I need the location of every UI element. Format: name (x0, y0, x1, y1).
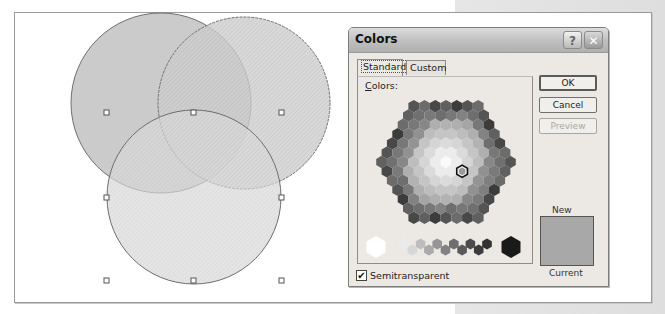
semitransparent-label[interactable]: Semitransparent (370, 270, 449, 281)
handle-middle-left[interactable] (104, 195, 109, 200)
semitransparent-checkbox[interactable]: ✔ (356, 270, 367, 281)
handle-bottom-center[interactable] (191, 278, 196, 283)
close-icon: ✕ (588, 34, 598, 48)
help-button[interactable]: ? (563, 31, 582, 49)
tab-standard-label: Standard (361, 60, 408, 73)
venn-circle-bottom[interactable] (107, 110, 281, 284)
handle-bottom-left[interactable] (104, 278, 109, 283)
palette-gray-cell[interactable] (482, 239, 492, 250)
handle-middle-right[interactable] (279, 195, 284, 200)
palette-gray-cell[interactable] (474, 245, 484, 256)
colors-dialog: Colors ? ✕ Standard Custom Colors: OK Ca… (348, 27, 609, 287)
current-color-label: Current (549, 268, 583, 278)
palette-gray-cell[interactable] (466, 239, 476, 250)
preview-button: Preview (539, 118, 597, 134)
handle-bottom-right[interactable] (279, 278, 284, 283)
handle-top-right[interactable] (279, 110, 284, 115)
palette-gray-cell[interactable] (432, 239, 442, 250)
dialog-title: Colors (355, 32, 397, 46)
ok-button[interactable]: OK (539, 75, 597, 91)
new-color-label: New (552, 205, 572, 215)
palette-gray-cell[interactable] (416, 239, 426, 250)
checkmark-icon: ✔ (357, 270, 365, 281)
palette-gray-cell[interactable] (408, 245, 418, 256)
palette-gray-cell[interactable] (441, 245, 451, 256)
palette-gray-cell[interactable] (424, 245, 434, 256)
color-hexagon-palette[interactable] (358, 77, 534, 265)
palette-gray-cell[interactable] (449, 239, 459, 250)
palette-gray-cell[interactable] (457, 245, 467, 256)
cancel-button[interactable]: Cancel (539, 97, 597, 113)
handle-top-center[interactable] (191, 110, 196, 115)
palette-black[interactable] (502, 236, 521, 258)
handle-top-left[interactable] (104, 110, 109, 115)
dialog-titlebar[interactable]: Colors ? ✕ (349, 28, 608, 53)
tab-standard[interactable]: Standard (357, 59, 403, 76)
palette-gray-cell[interactable] (399, 239, 409, 250)
standard-panel: Colors: (357, 76, 533, 264)
close-button[interactable]: ✕ (584, 31, 603, 49)
color-preview-swatch (540, 216, 594, 266)
palette-white[interactable] (367, 236, 386, 258)
tab-custom[interactable]: Custom (406, 60, 446, 75)
